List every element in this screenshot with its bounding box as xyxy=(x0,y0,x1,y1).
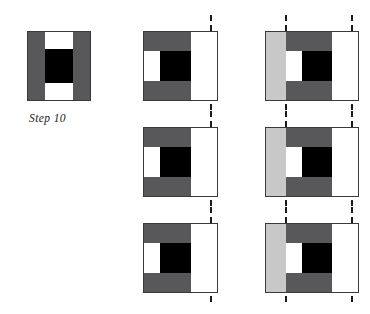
one-line-panel-row-1 xyxy=(143,15,238,110)
center-black-block xyxy=(45,49,73,83)
one-line-tile xyxy=(143,127,218,197)
left-white-strip xyxy=(144,147,160,177)
left-light-gray-panel xyxy=(266,32,286,100)
top-gray-band xyxy=(144,32,191,51)
center-black-block xyxy=(302,51,332,81)
step-10-tile xyxy=(27,31,91,101)
top-gray-band xyxy=(144,224,191,243)
center-black-block xyxy=(302,243,332,273)
left-light-gray-panel xyxy=(266,224,286,292)
right-white-panel xyxy=(191,224,217,292)
one-line-panel-row-3 xyxy=(143,207,238,302)
center-black-block xyxy=(160,51,191,81)
left-white-strip xyxy=(144,243,160,273)
center-black-block xyxy=(160,147,191,177)
figure-canvas: Step 10 xyxy=(0,0,370,314)
left-white-strip xyxy=(144,51,160,81)
one-line-panel-row-2 xyxy=(143,111,238,206)
two-line-panel-row-2 xyxy=(265,111,370,206)
two-line-panel-row-1 xyxy=(265,15,370,110)
top-gray-band xyxy=(286,128,332,147)
top-gray-band xyxy=(144,128,191,147)
step-caption: Step 10 xyxy=(29,112,66,124)
right-white-panel xyxy=(332,128,358,196)
two-line-panel-row-3 xyxy=(265,207,370,302)
bottom-gray-band xyxy=(286,81,332,100)
left-white-strip xyxy=(286,147,302,177)
right-gray-bar xyxy=(73,32,90,100)
right-white-panel xyxy=(332,32,358,100)
right-white-panel xyxy=(191,32,217,100)
left-white-strip xyxy=(286,243,302,273)
bottom-gray-band xyxy=(144,273,191,292)
bottom-gray-band xyxy=(286,177,332,196)
top-gray-band xyxy=(286,224,332,243)
one-line-tile xyxy=(143,223,218,293)
bottom-gray-band xyxy=(144,81,191,100)
top-gray-band xyxy=(286,32,332,51)
center-black-block xyxy=(160,243,191,273)
left-light-gray-panel xyxy=(266,128,286,196)
left-gray-bar xyxy=(28,32,45,100)
one-line-tile xyxy=(143,31,218,101)
center-black-block xyxy=(302,147,332,177)
bottom-gray-band xyxy=(286,273,332,292)
two-line-tile xyxy=(265,223,359,293)
right-white-panel xyxy=(332,224,358,292)
left-white-strip xyxy=(286,51,302,81)
two-line-tile xyxy=(265,127,359,197)
bottom-gray-band xyxy=(144,177,191,196)
two-line-tile xyxy=(265,31,359,101)
step-10-panel: Step 10 xyxy=(0,0,120,150)
top-white-block xyxy=(45,32,73,49)
right-white-panel xyxy=(191,128,217,196)
bottom-white-block xyxy=(45,83,73,100)
